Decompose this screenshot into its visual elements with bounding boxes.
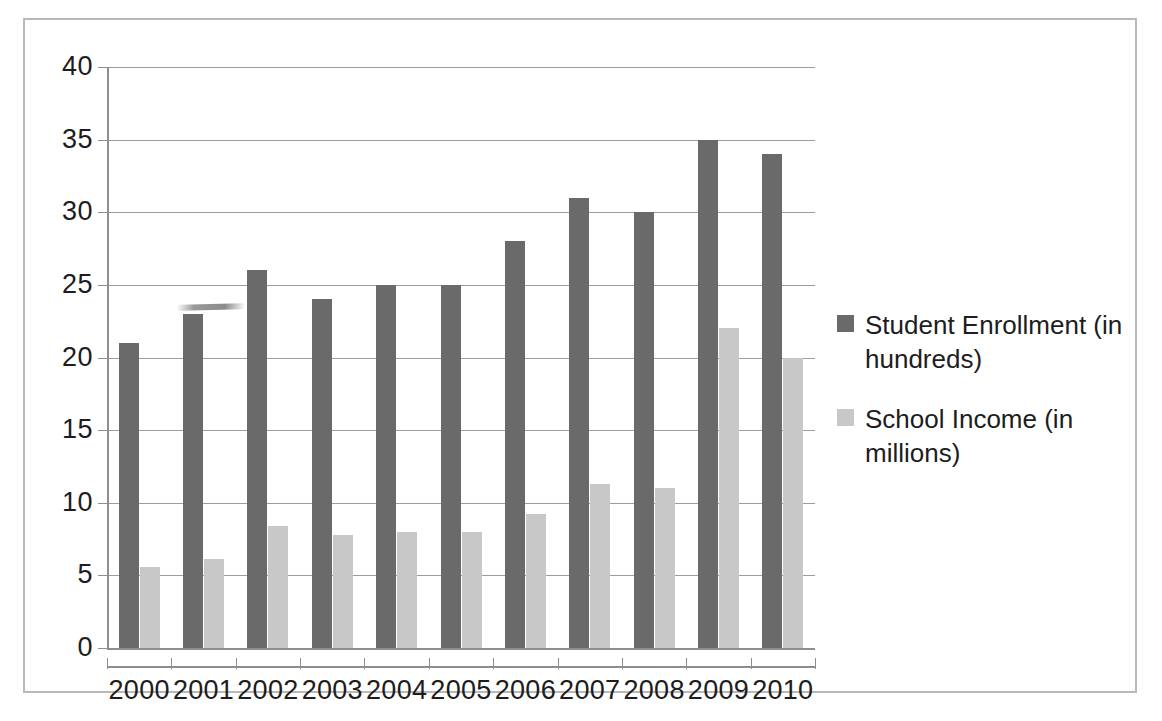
x-tick-label-2006: 2006 <box>493 675 557 705</box>
legend-entry-1[interactable]: School Income (in millions) <box>837 402 1137 470</box>
bar-2004-series-0[interactable] <box>376 285 396 648</box>
light-gray-swatch <box>837 409 854 426</box>
x-tick-label-2003: 2003 <box>300 675 364 705</box>
gridline-0 <box>107 648 815 650</box>
bar-2008-series-0[interactable] <box>634 212 654 648</box>
bar-2005-series-1[interactable] <box>462 532 482 648</box>
bar-2005-series-0[interactable] <box>441 285 461 648</box>
x-tick-10 <box>751 658 752 669</box>
x-tick-8 <box>622 658 623 669</box>
x-tick-9 <box>686 658 687 669</box>
x-tick-0 <box>107 658 108 669</box>
x-tick-label-2005: 2005 <box>429 675 493 705</box>
x-tick-label-2001: 2001 <box>171 675 235 705</box>
bar-2002-series-1[interactable] <box>268 526 288 648</box>
x-tick-label-2010: 2010 <box>751 675 815 705</box>
x-tick-6 <box>493 658 494 669</box>
y-tick-label-10: 10 <box>47 489 93 516</box>
chart-frame: 4035302520151050 20002001200220032004200… <box>23 18 1137 693</box>
bar-2006-series-1[interactable] <box>526 514 546 648</box>
bar-2007-series-0[interactable] <box>569 198 589 648</box>
bar-2000-series-0[interactable] <box>119 343 139 648</box>
y-tick-15 <box>98 430 108 431</box>
bar-2003-series-0[interactable] <box>312 299 332 648</box>
y-tick-10 <box>98 503 108 504</box>
y-tick-label-0: 0 <box>47 634 93 661</box>
bar-2010-series-1[interactable] <box>783 358 803 649</box>
x-tick-1 <box>171 658 172 669</box>
x-tick-4 <box>364 658 365 669</box>
x-tick-7 <box>558 658 559 669</box>
y-tick-5 <box>98 575 108 576</box>
legend-entry-0[interactable]: Student Enrollment (in hundreds) <box>837 308 1137 376</box>
x-tick-2 <box>236 658 237 669</box>
y-tick-0 <box>98 648 108 649</box>
bar-2001-series-0[interactable] <box>183 314 203 648</box>
y-tick-20 <box>98 358 108 359</box>
y-tick-label-40: 40 <box>47 53 93 80</box>
bar-2001-series-1[interactable] <box>204 559 224 648</box>
y-tick-40 <box>98 67 108 68</box>
bar-2006-series-0[interactable] <box>505 241 525 648</box>
bar-2009-series-0[interactable] <box>698 140 718 648</box>
legend-label-1: School Income (in millions) <box>865 402 1137 470</box>
bar-2008-series-1[interactable] <box>655 488 675 648</box>
legend-label-0: Student Enrollment (in hundreds) <box>865 308 1137 376</box>
x-tick-label-2009: 2009 <box>686 675 750 705</box>
bar-2002-series-0[interactable] <box>247 270 267 648</box>
chart-legend: Student Enrollment (in hundreds)School I… <box>837 308 1137 496</box>
bar-2007-series-1[interactable] <box>590 484 610 648</box>
x-tick-label-2008: 2008 <box>622 675 686 705</box>
x-tick-label-2002: 2002 <box>236 675 300 705</box>
y-tick-label-20: 20 <box>47 344 93 371</box>
y-tick-25 <box>98 285 108 286</box>
x-tick-11 <box>815 658 816 669</box>
y-tick-35 <box>98 140 108 141</box>
x-tick-5 <box>429 658 430 669</box>
y-tick-label-35: 35 <box>47 126 93 153</box>
y-tick-label-25: 25 <box>47 271 93 298</box>
x-tick-label-2004: 2004 <box>364 675 428 705</box>
gridline-40 <box>107 67 815 68</box>
bar-2009-series-1[interactable] <box>719 328 739 648</box>
y-tick-30 <box>98 212 108 213</box>
x-axis-line <box>107 666 816 668</box>
y-tick-label-30: 30 <box>47 198 93 225</box>
bar-2000-series-1[interactable] <box>140 567 160 648</box>
y-tick-label-5: 5 <box>47 561 93 588</box>
bar-2004-series-1[interactable] <box>397 532 417 648</box>
y-axis-tick-labels: 4035302520151050 <box>37 20 93 721</box>
bar-2010-series-0[interactable] <box>762 154 782 648</box>
x-tick-label-2007: 2007 <box>558 675 622 705</box>
x-tick-label-2000: 2000 <box>107 675 171 705</box>
bar-2003-series-1[interactable] <box>333 535 353 648</box>
plot-area <box>107 67 815 648</box>
x-tick-3 <box>300 658 301 669</box>
y-axis-line <box>107 67 109 650</box>
dark-gray-swatch <box>837 315 854 332</box>
y-tick-label-15: 15 <box>47 416 93 443</box>
